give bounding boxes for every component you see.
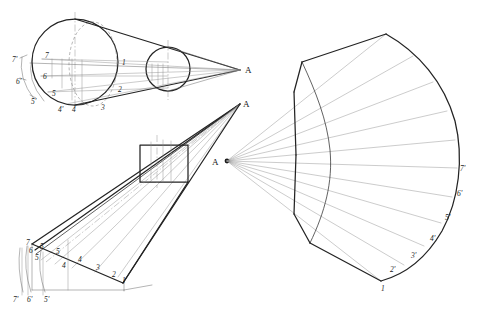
development-inner-curve <box>302 62 331 243</box>
base-extension-line <box>124 285 152 290</box>
dev-radial-line-7 <box>227 161 452 197</box>
label-bl-6: 6 <box>29 246 33 255</box>
label-tl-5: 5 <box>52 89 56 98</box>
dev-radial-line-6 <box>227 161 457 168</box>
dev-radial-line-10 <box>227 161 404 265</box>
label-dev-3p: 3' <box>410 251 417 260</box>
label-bl-5c: 5 <box>56 247 60 256</box>
label-tl-5p: 5' <box>31 97 37 106</box>
bl-arc-7 <box>19 248 23 292</box>
dev-radial-line-2 <box>227 56 413 161</box>
oblique-top-generator-2 <box>35 104 240 250</box>
oblique-generator-3 <box>95 104 240 272</box>
label-bl-2: 2 <box>112 270 116 279</box>
cone-lower-outline <box>75 70 240 105</box>
label-bl-5p: 5' <box>44 295 50 304</box>
arc-tick-7 <box>20 55 27 58</box>
label-bl-4: 4 <box>62 261 66 270</box>
dev-radial-line-11 <box>227 161 381 281</box>
label-tl-6: 6 <box>43 72 47 81</box>
label-tl-4p: 4' <box>58 105 64 114</box>
label-tl-6p: 6' <box>16 77 22 86</box>
dev-radial-line-4 <box>227 111 447 161</box>
label-tl-1: 1 <box>122 58 126 67</box>
label-tl-3: 3 <box>100 103 105 112</box>
label-dev-1: 1 <box>381 284 385 293</box>
element-line-6 <box>41 70 240 76</box>
oblique-generator-6 <box>36 104 240 254</box>
label-dev-2p: 2' <box>390 265 396 274</box>
label-tl-7p: 7' <box>12 55 18 64</box>
cutting-plane-edge-down <box>123 182 188 283</box>
development-outer-arc <box>381 34 459 281</box>
label-tl-7: 7 <box>45 51 49 60</box>
oblique-top-generator <box>32 104 240 244</box>
label-bl-7p: 7' <box>13 295 19 304</box>
development-seam-bottom <box>310 243 381 281</box>
chord-line-upper <box>42 59 168 62</box>
oblique-axis-centerline <box>46 106 238 262</box>
label-dev-6p: 6' <box>457 189 463 198</box>
bottom-left-view: A <box>13 99 250 304</box>
label-apex-top: A <box>245 65 252 75</box>
small-circle-lower-generator <box>168 70 240 91</box>
hidden-base-ellipse <box>69 22 117 106</box>
label-tl-4: 4 <box>72 105 76 114</box>
label-bl-1: 1 <box>122 276 126 285</box>
label-dev-4p: 4' <box>430 234 436 243</box>
dev-radial-line-8 <box>227 161 441 223</box>
oblique-generator-2 <box>118 104 240 277</box>
label-apex-dev: A <box>212 157 219 167</box>
label-bl-4b: 4 <box>78 255 82 264</box>
development-seam-top <box>302 34 386 62</box>
oblique-generator-4 <box>72 104 240 268</box>
development-inner-edge-bottom <box>294 214 310 243</box>
label-tl-2: 2 <box>118 85 122 94</box>
dev-radial-line-1 <box>227 34 386 161</box>
dev-radial-line-5 <box>227 140 455 161</box>
label-bl-5: 5 <box>40 242 44 251</box>
oblique-generator-5b <box>55 104 240 264</box>
development-inner-edge-top <box>294 62 302 92</box>
dev-radial-line-9 <box>227 161 424 246</box>
label-bl-6p: 6' <box>27 295 33 304</box>
technical-drawing-svg: 7' 7 6' 6 5' 5 4' 4 3 1 2 A A <box>0 0 486 313</box>
drawing-canvas: 7' 7 6' 6 5' 5 4' 4 3 1 2 A A <box>0 0 486 313</box>
label-bl-5b: 5 <box>35 253 39 262</box>
top-left-view: 7' 7 6' 6 5' 5 4' 4 3 1 2 A <box>12 12 252 114</box>
label-bl-3: 3 <box>95 263 100 272</box>
label-dev-5p: 5' <box>445 213 451 222</box>
label-apex-mid: A <box>243 99 250 109</box>
bl-arc-5 <box>40 250 45 292</box>
label-dev-7p: 7' <box>460 164 466 173</box>
development-inner-left-bottom <box>294 155 296 214</box>
